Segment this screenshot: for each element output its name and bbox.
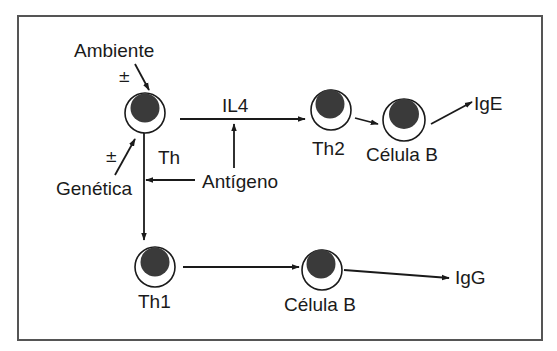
label-th1: Th1	[138, 291, 171, 312]
cell-th2	[311, 90, 351, 131]
label-igg: IgG	[455, 267, 486, 288]
cell-th	[125, 93, 165, 133]
label-celula-b-top: Célula B	[366, 144, 438, 165]
cell-celula-b-bottom	[302, 250, 342, 291]
cell-celula-b-top	[383, 99, 425, 141]
label-th: Th	[158, 147, 180, 168]
label-ambiente: Ambiente	[74, 40, 154, 61]
label-th2: Th2	[312, 138, 345, 159]
label-genetica: Genética	[56, 178, 132, 199]
label-plus-minus-genetica: ±	[105, 148, 118, 166]
label-antigeno: Antígeno	[202, 171, 278, 192]
immune-pathway-diagram: Ambiente ± Th ± Genética IL4 Antígeno Th…	[0, 0, 557, 351]
label-celula-b-bottom: Célula B	[284, 294, 356, 315]
label-plus-minus-ambiente: ±	[118, 68, 131, 86]
label-il4: IL4	[222, 95, 249, 116]
label-ige: IgE	[474, 93, 503, 114]
cell-th1	[135, 247, 175, 287]
